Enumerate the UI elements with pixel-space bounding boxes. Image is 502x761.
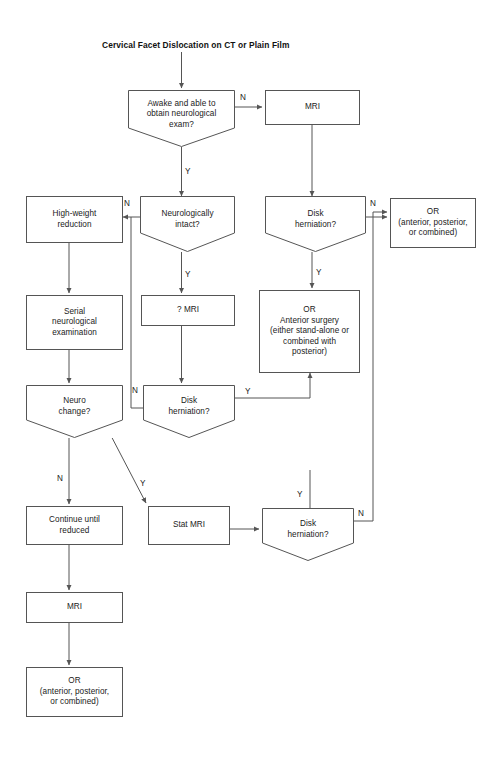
connector-lines	[0, 0, 502, 761]
decision-neurologically-intact: Neurologically intact?	[140, 196, 235, 252]
terminal-or-bottom: OR (anterior, posterior, or combined)	[26, 667, 123, 717]
edge-label-awake-no: N	[240, 93, 246, 102]
decision-awake-neuro-exam-label: Awake and able to obtain neurological ex…	[144, 99, 220, 131]
process-stat-mri-label: Stat MRI	[170, 520, 208, 531]
process-high-weight-reduction-label: High-weight reduction	[50, 209, 100, 230]
decision-disk-herniation-mid: Disk herniation?	[143, 385, 235, 438]
process-serial-neuro-exam-label: Serial neurological examination	[49, 307, 100, 339]
edge-label-disk-top-no: N	[370, 199, 376, 208]
decision-neuro-change-label: Neuro change?	[56, 396, 94, 417]
process-mri-bottom: MRI	[26, 592, 123, 623]
terminal-or-bottom-label: OR (anterior, posterior, or combined)	[37, 676, 112, 708]
process-mri-top: MRI	[265, 90, 360, 125]
edge-label-disk-mid-yes: Y	[245, 387, 250, 396]
edge-label-neuro-intact-yes: Y	[185, 270, 190, 279]
process-high-weight-reduction: High-weight reduction	[26, 196, 123, 243]
edge-label-disk-mid-no: N	[132, 386, 138, 395]
edge-label-disk-top-yes: Y	[316, 268, 321, 277]
terminal-or-anterior-surgery-label: OR Anterior surgery (either stand-alone …	[267, 305, 352, 358]
process-mri-bottom-label: MRI	[64, 602, 85, 613]
process-question-mri-label: ? MRI	[174, 305, 202, 316]
process-question-mri: ? MRI	[141, 295, 235, 326]
decision-neuro-change: Neuro change?	[26, 385, 123, 438]
decision-disk-herniation-bottom-label: Disk herniation?	[284, 519, 331, 540]
decision-disk-herniation-bottom: Disk herniation?	[262, 508, 354, 561]
process-mri-top-label: MRI	[302, 102, 323, 113]
chart-title: Cervical Facet Dislocation on CT or Plai…	[102, 40, 290, 51]
edge-label-neuro-change-yes: Y	[140, 479, 145, 488]
terminal-or-right-label: OR (anterior, posterior, or combined)	[395, 207, 470, 239]
edge-label-disk-bottom-no: N	[358, 509, 364, 518]
edge-label-disk-bottom-yes: Y	[297, 490, 302, 499]
decision-disk-herniation-top-label: Disk herniation?	[292, 209, 339, 230]
decision-disk-herniation-mid-label: Disk herniation?	[165, 396, 212, 417]
terminal-or-right: OR (anterior, posterior, or combined)	[390, 198, 476, 248]
decision-neurologically-intact-label: Neurologically intact?	[158, 209, 216, 230]
edge-label-awake-yes: Y	[185, 167, 190, 176]
terminal-or-anterior-surgery: OR Anterior surgery (either stand-alone …	[259, 290, 360, 373]
edge-label-neuro-intact-no: N	[124, 199, 130, 208]
process-continue-until-reduced: Continue until reduced	[26, 506, 123, 545]
edge-label-neuro-change-no: N	[57, 474, 63, 483]
process-continue-until-reduced-label: Continue until reduced	[46, 515, 103, 536]
process-serial-neuro-exam: Serial neurological examination	[26, 295, 123, 350]
flowchart-canvas: Cervical Facet Dislocation on CT or Plai…	[0, 0, 502, 761]
process-stat-mri: Stat MRI	[148, 506, 230, 545]
decision-disk-herniation-top: Disk herniation?	[265, 196, 366, 252]
decision-awake-neuro-exam: Awake and able to obtain neurological ex…	[128, 90, 235, 147]
